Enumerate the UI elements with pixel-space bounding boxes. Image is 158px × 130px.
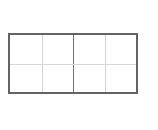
grid-cell-r2c1[interactable]: [10, 64, 42, 93]
grid-cell-r1c4[interactable]: [105, 35, 137, 64]
grid-cell-r1c2[interactable]: [42, 35, 74, 64]
diagram-canvas: [0, 0, 158, 130]
grid-cell-r2c2[interactable]: [42, 64, 74, 93]
grid-cell-r1c1[interactable]: [10, 35, 42, 64]
grid-frame[interactable]: [8, 33, 138, 94]
grid-cell-r1c3[interactable]: [73, 35, 105, 64]
grid-cells: [10, 35, 136, 92]
grid-cell-r2c4[interactable]: [105, 64, 137, 93]
grid-cell-r2c3[interactable]: [73, 64, 105, 93]
